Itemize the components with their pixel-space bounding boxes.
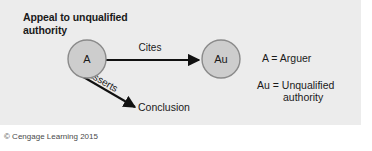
legend-authority: Au = Unqualifiedauthority [257,79,334,103]
diagram-canvas: Cites Asserts A Au [0,0,372,151]
legend-authority-line-1: Au = Unqualified [257,79,334,91]
edge-cites-label: Cites [139,42,162,53]
node-authority-label: Au [214,53,227,65]
copyright-credit: © Cengage Learning 2015 [4,132,98,141]
node-conclusion-label: Conclusion [138,101,190,113]
figure-appeal-to-unqualified-authority: Appeal to unqualifiedauthority Cites Ass… [0,0,372,151]
legend-authority-line-2: authority [257,91,334,103]
node-arguer-label: A [83,53,91,65]
legend-arguer: A = Arguer [262,52,311,64]
